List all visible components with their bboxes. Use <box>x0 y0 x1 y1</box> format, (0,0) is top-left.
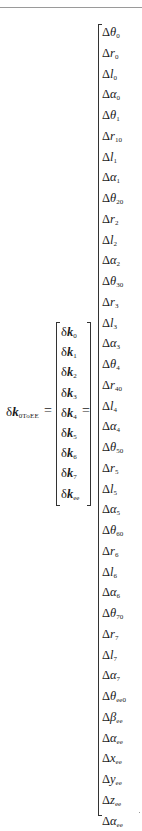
delta-symbol: Δ <box>102 212 110 226</box>
entry-subscript: 7 <box>73 473 77 481</box>
right-vector-entry: Δα2 <box>102 253 120 271</box>
right-vector-entry: Δα0 <box>102 87 120 105</box>
entry-subscript: 40 <box>115 385 122 393</box>
entry-subscript: 70 <box>116 613 123 621</box>
right-vector-entry: Δr6 <box>102 544 118 562</box>
entry-subscript: 6 <box>114 572 118 580</box>
entry-subscript: 6 <box>115 551 119 559</box>
right-vector-entry: Δα1 <box>102 170 120 188</box>
entry-subscript: 0 <box>73 332 77 340</box>
entry-subscript: 1 <box>114 157 118 165</box>
entry-subscript: ee <box>117 821 123 829</box>
delta-symbol: Δ <box>102 772 110 786</box>
middle-vector-entry: δk0 <box>61 325 77 343</box>
entry-subscript: 3 <box>114 323 118 331</box>
middle-vector-entry: δk5 <box>61 426 77 444</box>
delta-symbol: Δ <box>102 523 110 537</box>
right-vector-entry: Δθ20 <box>102 191 123 209</box>
right-vector-entry: Δr3 <box>102 295 118 313</box>
right-vector-entry: Δr40 <box>102 378 122 396</box>
middle-vector-entry: δk6 <box>61 446 77 464</box>
lhs-subscript: 0ToEE <box>19 412 39 420</box>
middle-vector-entry: δk4 <box>61 406 77 424</box>
delta-symbol: Δ <box>102 710 110 724</box>
delta-symbol: Δ <box>102 191 110 205</box>
right-vector-entry: Δl6 <box>102 565 117 583</box>
entry-subscript: 5 <box>73 433 77 441</box>
left-bracket <box>56 322 60 506</box>
delta-symbol: Δ <box>102 253 110 267</box>
entry-subscript: ee <box>73 494 79 502</box>
entry-subscript: 3 <box>73 393 77 401</box>
entry-subscript: 3 <box>115 302 119 310</box>
delta-symbol: Δ <box>102 565 110 579</box>
right-vector-entry: Δθ1 <box>102 108 120 126</box>
right-vector-entry: Δl4 <box>102 399 117 417</box>
entry-subscript: 5 <box>114 489 118 497</box>
entry-subscript: 50 <box>116 447 123 455</box>
delta-symbol: Δ <box>102 668 110 682</box>
delta-symbol: Δ <box>102 751 110 765</box>
entry-subscript: 30 <box>116 281 123 289</box>
delta-symbol: Δ <box>102 87 110 101</box>
delta-symbol: Δ <box>102 793 110 807</box>
delta-symbol: Δ <box>102 461 110 475</box>
middle-vector: δk0δk1δk2δk3δk4δk5δk6δk7δkee <box>56 322 80 506</box>
right-vector-entry: Δθ50 <box>102 440 123 458</box>
delta-symbol: Δ <box>102 233 110 247</box>
delta-symbol: Δ <box>102 378 110 392</box>
entry-subscript: 1 <box>116 115 120 123</box>
entry-subscript: 7 <box>115 634 119 642</box>
lhs-term: δk0ToEE <box>6 404 39 424</box>
delta-symbol: Δ <box>102 357 110 371</box>
right-vector-entry: Δα7 <box>102 668 120 686</box>
delta-symbol: Δ <box>102 606 110 620</box>
delta-symbol: Δ <box>102 150 110 164</box>
delta-symbol: Δ <box>102 295 110 309</box>
delta-symbol: Δ <box>102 108 110 122</box>
right-vector-entry: Δθ30 <box>102 274 123 292</box>
right-vector-entry: Δzee <box>102 793 121 811</box>
delta-symbol: Δ <box>102 544 110 558</box>
right-vector-entry: Δl1 <box>102 150 117 168</box>
entry-subscript: 0 <box>116 32 120 40</box>
entry-subscript: 2 <box>115 219 119 227</box>
entry-subscript: 2 <box>114 240 118 248</box>
entry-subscript: 4 <box>114 406 118 414</box>
right-vector-entry: Δxee <box>102 751 122 769</box>
equals-sign-1: = <box>44 403 52 419</box>
middle-vector-entry: δk2 <box>61 365 77 383</box>
entry-subscript: 1 <box>73 352 77 360</box>
right-vector-entry: Δl2 <box>102 233 117 251</box>
middle-vector-entry: δk3 <box>61 386 77 404</box>
delta-symbol: Δ <box>102 25 110 39</box>
trailing-period <box>139 812 140 813</box>
delta-symbol: Δ <box>102 419 110 433</box>
delta-symbol: Δ <box>102 274 110 288</box>
right-vector-entry: Δα3 <box>102 336 120 354</box>
entry-subscript: 2 <box>73 372 77 380</box>
delta-symbol: Δ <box>102 731 110 745</box>
right-vector-entry: Δr2 <box>102 212 118 230</box>
delta-symbol: Δ <box>102 482 110 496</box>
right-vector-entry: Δαee <box>102 814 123 831</box>
entry-subscript: 20 <box>116 198 123 206</box>
entry-subscript: 3 <box>117 343 121 351</box>
right-vector-entry: Δθ4 <box>102 357 120 375</box>
right-vector-entry: Δα5 <box>102 502 120 520</box>
right-vector-entry: Δyee <box>102 772 122 790</box>
entry-subscript: ee0 <box>116 696 126 704</box>
entry-subscript: 0 <box>115 53 119 61</box>
top-rule <box>0 7 142 8</box>
entry-subscript: 4 <box>117 426 121 434</box>
delta-symbol: Δ <box>102 648 110 662</box>
entry-subscript: ee <box>117 738 123 746</box>
delta-symbol: Δ <box>102 399 110 413</box>
right-vector-entry: Δl5 <box>102 482 117 500</box>
right-vector-entry: Δr0 <box>102 46 118 64</box>
entry-subscript: ee <box>115 800 121 808</box>
delta-symbol: Δ <box>102 316 110 330</box>
right-vector-entry: Δθ60 <box>102 523 123 541</box>
right-vector-entry: Δθee0 <box>102 689 126 707</box>
right-vector-entry: Δl0 <box>102 67 117 85</box>
